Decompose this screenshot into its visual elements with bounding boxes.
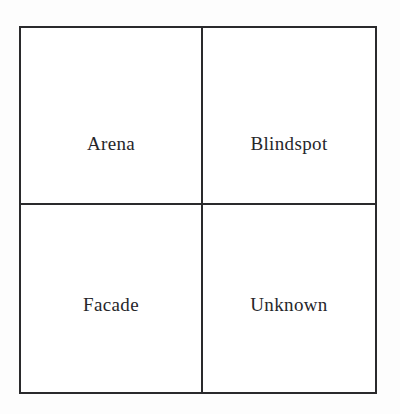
quadrant-arena: Arena <box>21 28 203 205</box>
quadrant-facade: Facade <box>21 205 203 392</box>
quadrant-blindspot: Blindspot <box>203 28 375 205</box>
quadrant-unknown: Unknown <box>203 205 375 392</box>
figure-canvas: Arena Blindspot Facade Unknown <box>0 0 400 414</box>
quadrant-label-blindspot: Blindspot <box>250 134 327 153</box>
quadrant-label-facade: Facade <box>83 295 139 314</box>
johari-window-grid: Arena Blindspot Facade Unknown <box>19 26 377 394</box>
quadrant-label-unknown: Unknown <box>250 295 327 314</box>
quadrant-label-arena: Arena <box>87 134 135 153</box>
